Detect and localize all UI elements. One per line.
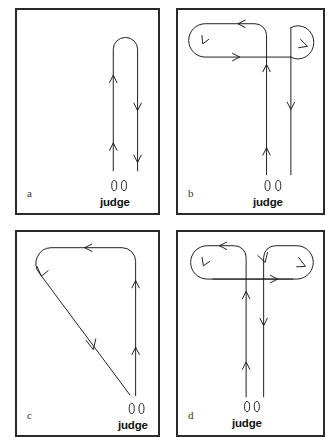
judge-label-d: judge	[232, 417, 262, 429]
footprints-icon	[245, 401, 260, 411]
panel-c: c judge	[15, 230, 160, 437]
judge-label-b: judge	[253, 196, 283, 208]
judge-label-c: judge	[118, 419, 148, 431]
panel-c-diagram	[17, 232, 158, 435]
panel-b-diagram	[178, 10, 323, 213]
panel-letter-b: b	[188, 187, 194, 199]
panel-a: a judge	[15, 8, 160, 215]
judge-label-a: judge	[100, 196, 130, 208]
figure-container: a judge	[0, 0, 336, 446]
footprints-icon	[112, 180, 127, 190]
panel-d: d judge	[176, 230, 325, 437]
panel-letter-d: d	[188, 409, 194, 421]
footprints-icon	[265, 180, 281, 190]
footprints-icon	[129, 403, 144, 413]
panel-letter-c: c	[27, 409, 32, 421]
panel-d-diagram	[178, 232, 323, 435]
panel-b: b judge	[176, 8, 325, 215]
panel-letter-a: a	[27, 187, 32, 199]
panel-a-diagram	[17, 10, 158, 213]
